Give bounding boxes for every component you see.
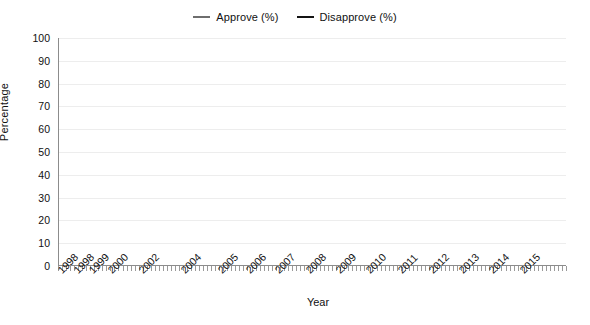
y-axis-tick-label: 10	[38, 238, 50, 249]
legend-item-disapprove[interactable]: Disapprove (%)	[297, 12, 397, 23]
legend-swatch-approve-icon	[193, 16, 210, 18]
legend-swatch-disapprove-icon	[297, 16, 314, 18]
plot-area	[58, 38, 566, 266]
gridline	[58, 220, 566, 221]
y-axis-tick-label: 60	[38, 124, 50, 135]
gridline	[58, 152, 566, 153]
gridline	[58, 61, 566, 62]
gridline	[58, 84, 566, 85]
y-axis-tick-label: 80	[38, 78, 50, 89]
gridline	[58, 129, 566, 130]
legend-label-disapprove: Disapprove (%)	[320, 12, 397, 23]
y-axis-tick-label: 90	[38, 56, 50, 67]
gridline	[58, 106, 566, 107]
y-axis-tick-label: 70	[38, 101, 50, 112]
legend-label-approve: Approve (%)	[216, 12, 278, 23]
x-axis-title-text: Year	[307, 296, 329, 308]
gridline	[58, 243, 566, 244]
y-axis-tick-label: 30	[38, 192, 50, 203]
gridline	[58, 198, 566, 199]
y-axis-tick-label: 50	[38, 147, 50, 158]
legend-item-approve[interactable]: Approve (%)	[193, 12, 278, 23]
gridline	[58, 38, 566, 39]
gridline	[58, 175, 566, 176]
y-axis-ticks: 0102030405060708090100	[0, 38, 56, 266]
y-axis-tick-label: 40	[38, 170, 50, 181]
y-axis-tick-label: 20	[38, 215, 50, 226]
y-axis-line	[58, 38, 59, 266]
x-axis-title: Year	[0, 296, 590, 308]
chart-container: Approve (%) Disapprove (%) Percentage 01…	[0, 0, 590, 325]
y-axis-tick-label: 100	[32, 33, 50, 44]
chart-legend: Approve (%) Disapprove (%)	[0, 8, 590, 26]
